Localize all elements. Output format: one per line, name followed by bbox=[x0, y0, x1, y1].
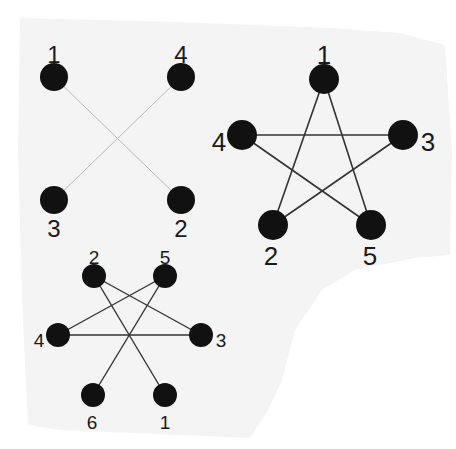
paper-background bbox=[18, 18, 452, 438]
node-label-2: 2 bbox=[89, 247, 100, 268]
node-6 bbox=[81, 383, 105, 407]
node-label-4: 4 bbox=[212, 127, 226, 157]
node-3 bbox=[40, 186, 68, 214]
node-label-2: 2 bbox=[264, 241, 278, 271]
node-label-5: 5 bbox=[160, 247, 171, 268]
node-4 bbox=[227, 120, 257, 150]
node-4 bbox=[46, 323, 70, 347]
node-label-3: 3 bbox=[216, 330, 227, 351]
node-label-4: 4 bbox=[174, 41, 187, 68]
node-label-2: 2 bbox=[174, 215, 187, 242]
node-label-5: 5 bbox=[363, 241, 377, 271]
node-5 bbox=[356, 210, 386, 240]
node-label-1: 1 bbox=[47, 41, 60, 68]
node-label-1: 1 bbox=[160, 412, 171, 433]
diagram-canvas: 1432 14325 254361 bbox=[0, 0, 456, 449]
node-2 bbox=[258, 210, 288, 240]
node-label-6: 6 bbox=[87, 412, 98, 433]
node-label-3: 3 bbox=[421, 127, 435, 157]
node-label-3: 3 bbox=[47, 215, 60, 242]
node-label-4: 4 bbox=[34, 330, 45, 351]
node-label-1: 1 bbox=[317, 40, 331, 70]
node-1 bbox=[153, 383, 177, 407]
node-2 bbox=[167, 186, 195, 214]
node-3 bbox=[189, 323, 213, 347]
node-3 bbox=[388, 120, 418, 150]
